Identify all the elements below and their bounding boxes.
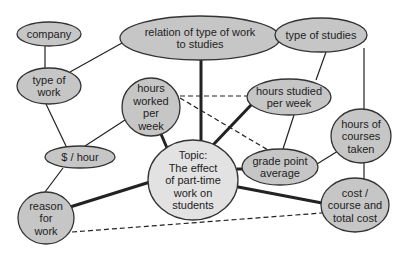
- node-label: cost /: [342, 187, 369, 199]
- node-label: taken: [348, 143, 375, 155]
- nodes-layer: companyrelation of type of workto studie…: [17, 16, 391, 244]
- node-label: to studies: [176, 38, 224, 50]
- node-label: type of: [32, 74, 66, 86]
- node-company: company: [17, 22, 81, 46]
- node-label: per week: [267, 97, 312, 109]
- node-label: company: [27, 28, 72, 40]
- node-gpa: grade pointaverage: [242, 149, 318, 185]
- edge-type-of-studies-to-hours-studied: [316, 52, 326, 80]
- node-label: students: [172, 199, 214, 211]
- edge-hours-studied-to-topic: [213, 104, 252, 145]
- node-hours-studied: hours studiedper week: [247, 79, 331, 115]
- concept-map-svg: companyrelation of type of workto studie…: [0, 0, 407, 255]
- edge-topic-to-reason: [70, 182, 150, 207]
- node-label: grade point: [252, 155, 307, 167]
- concept-map: companyrelation of type of workto studie…: [0, 0, 407, 255]
- node-label: courses: [342, 130, 381, 142]
- node-type-of-work: type ofwork: [17, 68, 81, 104]
- node-label: Topic:: [179, 149, 208, 161]
- node-reason: reasonforwork: [18, 192, 74, 244]
- node-label: relation of type of work: [145, 26, 256, 38]
- node-label: week: [137, 120, 164, 132]
- node-label: worked: [132, 95, 168, 107]
- edge-hours-courses-to-gpa: [317, 151, 338, 164]
- node-label: total cost: [333, 212, 377, 224]
- node-label: for: [40, 212, 53, 224]
- node-label: hours: [137, 82, 165, 94]
- node-label: per: [143, 107, 159, 119]
- node-label: hours of: [341, 118, 382, 130]
- node-label: The effect: [169, 162, 218, 174]
- node-label: average: [260, 167, 300, 179]
- edge-topic-to-cost: [233, 186, 322, 203]
- edge-hours-worked-to-dollar-hour: [85, 120, 125, 146]
- node-label: reason: [29, 200, 63, 212]
- edge-dollar-hour-to-reason: [45, 168, 63, 192]
- edge-type-of-work-to-relation: [70, 43, 122, 72]
- node-relation: relation of type of workto studies: [120, 16, 280, 60]
- node-label: course and: [328, 199, 382, 211]
- node-hours-worked: hoursworkedperweek: [122, 78, 180, 136]
- node-label: work: [36, 86, 61, 98]
- edge-hours-worked-to-topic: [161, 134, 167, 148]
- node-label: work on: [173, 187, 213, 199]
- node-label: $ / hour: [61, 151, 99, 163]
- node-hours-courses: hours ofcoursestaken: [331, 109, 391, 163]
- node-label: hours studied: [256, 85, 322, 97]
- edge-hours-studied-to-gpa: [283, 115, 294, 149]
- node-label: type of studies: [286, 29, 357, 41]
- node-topic: Topic:The effectof part-timework onstude…: [148, 140, 238, 220]
- node-label: of part-time: [165, 174, 221, 186]
- node-type-of-studies: type of studies: [275, 18, 367, 52]
- node-label: work: [33, 225, 58, 237]
- node-dollar-hour: $ / hour: [45, 146, 115, 168]
- edge-type-of-work-to-dollar-hour: [46, 104, 66, 146]
- node-cost: cost /course andtotal cost: [321, 178, 389, 232]
